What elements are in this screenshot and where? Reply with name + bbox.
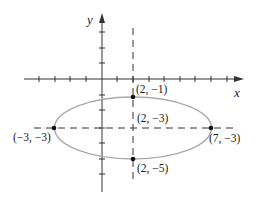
point-top <box>131 95 136 100</box>
x-axis-arrow-icon <box>234 76 244 82</box>
label-bottom-vertex: (2, −5) <box>137 162 169 175</box>
label-left-vertex: (−3, −3) <box>13 131 51 144</box>
label-right-vertex: (7, −3) <box>209 132 241 145</box>
point-right <box>209 126 214 131</box>
label-top-vertex: (2, −1) <box>136 83 168 96</box>
y-axis-arrow-icon <box>99 13 105 23</box>
label-center: (2, −3) <box>137 112 169 125</box>
y-axis-label: y <box>85 12 93 27</box>
ellipse-diagram: x y (2, −1) (2, −3) (2, −5) (−3, −3) (7 <box>0 0 257 197</box>
point-bottom <box>131 157 136 162</box>
x-axis-label: x <box>233 85 240 100</box>
point-left <box>52 126 57 131</box>
